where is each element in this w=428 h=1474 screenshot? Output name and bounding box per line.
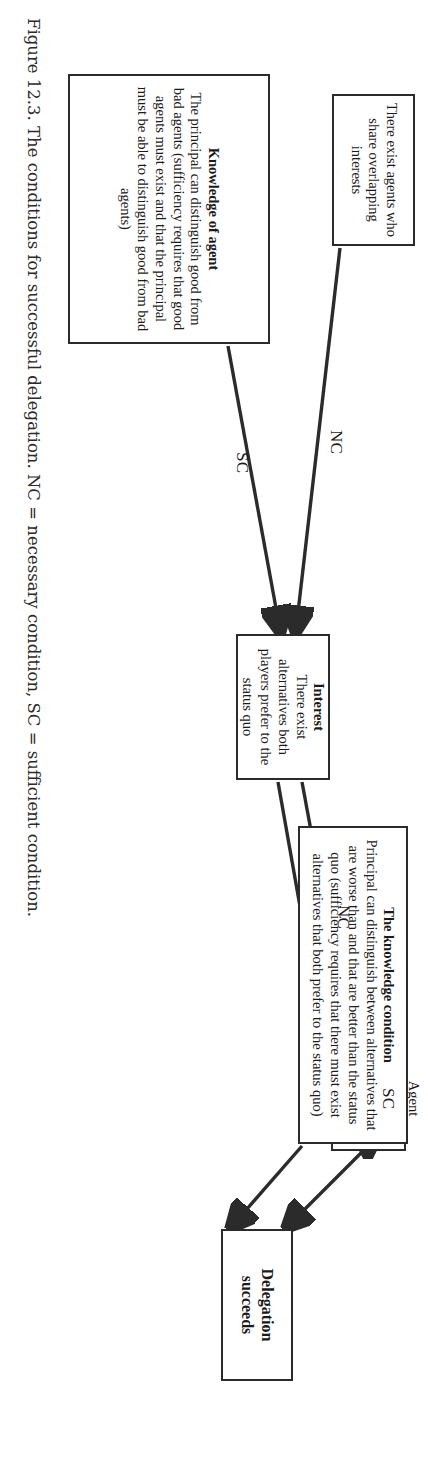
rotated-figure-stage: Delegation succeeds Agent proposes an al…: [0, 0, 428, 1474]
edge-knowledgecondition-to-delegation: [232, 1146, 302, 1226]
edge-label-nc-interest-to-agent: NC: [333, 905, 353, 929]
node-interest-body: There exist alternatives both players pr…: [240, 649, 309, 765]
edge-label-sc-knowledgeagent-to-interest: SC: [232, 452, 252, 473]
node-overlapping-interests: There exist agents who share overlapping…: [332, 94, 415, 246]
node-delegation-title-line1: Delegation: [259, 1269, 276, 1342]
node-delegation-title-line2: succeeds: [239, 1276, 256, 1335]
edge-agentproposes-to-delegation: [288, 1152, 362, 1226]
node-knowledge-of-agent-title: Knowledge of agent: [204, 82, 222, 336]
flowchart-diagram: Delegation succeeds Agent proposes an al…: [68, 0, 428, 1474]
edge-label-sc-knowledge-to-agent: SC: [378, 1088, 398, 1109]
edge-knowledgeofagent-to-interest: [228, 346, 280, 630]
figure-caption: Figure 12.3. The conditions for successf…: [24, 0, 43, 1474]
node-interest: Interest There exist alternatives both p…: [236, 634, 330, 780]
node-knowledge-of-agent-body: The principal can distinguish good from …: [118, 87, 205, 331]
node-overlapping-interests-body: There exist agents who share overlapping…: [347, 102, 400, 238]
edge-label-nc-overlapping-to-interest: NC: [326, 430, 346, 454]
node-delegation-succeeds: Delegation succeeds: [221, 1229, 293, 1381]
node-knowledge-of-agent: Knowledge of agent The principal can dis…: [68, 74, 270, 344]
node-interest-title: Interest: [310, 642, 328, 772]
node-knowledge-condition-body: Principal can distinguish between altern…: [310, 839, 379, 1130]
